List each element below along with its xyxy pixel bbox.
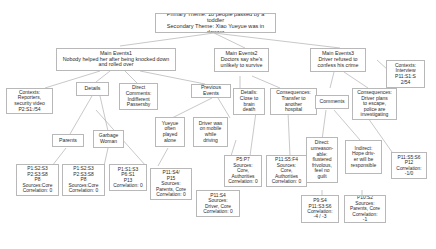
node-consequences-2[interactable]: Consequences: Transfer to another hospit…	[270, 88, 317, 115]
data-box-details-2[interactable]: P5:P7 Sources: Core, Authorities Correla…	[224, 155, 262, 187]
data-box-consequences-2[interactable]: P11:S5:F4 Sources: Core, Authorities Cor…	[266, 155, 307, 187]
data-box-direct-comments[interactable]: P1:S1:S3 P6:S1 P13 Correlation: 0	[109, 164, 147, 191]
data-box-parents[interactable]: P1:S2:S3 P2:S3:S8 P8 Sources:Core Correl…	[16, 164, 59, 196]
node-contexts-reporters[interactable]: Contexts: Reporters, security video P2:S…	[6, 88, 53, 114]
node-direct-unreasonable[interactable]: Direct: unreason- able: flustered frivol…	[306, 137, 338, 183]
node-indirect-hope[interactable]: Indirect: Hope driv- er will be responsi…	[345, 140, 382, 174]
node-garbage-woman[interactable]: Garbage Woman	[93, 130, 124, 148]
node-consequences-3[interactable]: Consequences: Driver plans to escape, po…	[352, 88, 397, 120]
data-box-driver-mobile[interactable]: P11:S4 Sources: Driver, Core Correlation…	[196, 190, 240, 217]
data-box-direct-unreasonable[interactable]: P9:S4 P11:S3:S6 Correlation: -4 / -3	[301, 195, 339, 223]
diagram-canvas: Primary Theme: 18 people passed by a tod…	[0, 0, 436, 249]
node-driver-mobile[interactable]: Driver was on mobile while driving	[193, 117, 228, 147]
node-comments-3[interactable]: Comments	[315, 95, 349, 109]
node-root-theme[interactable]: Primary Theme: 18 people passed by a tod…	[155, 13, 276, 33]
data-box-indirect-hope[interactable]: P10:S2 Sources: Parents, Core Correlatio…	[344, 195, 386, 223]
node-contexts-interview[interactable]: Contexts: Interview P11:S1:S 2/54	[386, 60, 425, 88]
node-details-2[interactable]: Details: Close to brain death	[233, 88, 265, 115]
node-main-events-1[interactable]: Main Events1 Nobody helped her after bei…	[56, 48, 176, 71]
node-parents[interactable]: Parents	[52, 134, 84, 147]
node-main-events-3[interactable]: Main Events3 Driver refused to confess h…	[310, 48, 366, 72]
node-main-events-2[interactable]: Main Events2 Doctors say she's unlikely …	[214, 48, 269, 72]
data-box-consequences-3[interactable]: P11:S5:S6 P12 Correlation: -1/0	[391, 152, 427, 179]
data-box-yueyue-alone[interactable]: P11:S4/ P15 Sources: Parents, Core Corre…	[150, 168, 192, 200]
node-previous-events[interactable]: Previous Events	[191, 84, 231, 98]
node-direct-comments[interactable]: Direct Comments: Indifferent Passersby	[119, 83, 158, 110]
node-details-1[interactable]: Details	[76, 82, 109, 96]
data-box-garbage-woman[interactable]: P1:S2:S3 P2:S3:S8 P8 Sources:Core Correl…	[62, 164, 105, 196]
node-yueyue-alone[interactable]: Yueyue often played alone	[155, 117, 185, 147]
